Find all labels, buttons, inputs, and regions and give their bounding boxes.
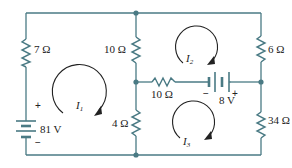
minus-sign-8v: − <box>203 88 209 99</box>
battery-8v <box>209 72 231 92</box>
label-81v: 81 V <box>40 123 62 135</box>
resistor-34-ohm <box>257 112 265 138</box>
circuit-schematic: 7 Ω 10 Ω 4 Ω 10 Ω 6 Ω 34 Ω 81 V + − 8 V … <box>0 0 292 168</box>
resistor-10-ohm-vertical <box>132 37 140 63</box>
plus-sign-81v: + <box>35 100 41 111</box>
circuit-diagram: 7 Ω 10 Ω 4 Ω 10 Ω 6 Ω 34 Ω 81 V + − 8 V … <box>0 0 292 168</box>
minus-sign-81v: − <box>35 137 41 148</box>
label-10-ohm-horizontal: 10 Ω <box>151 88 173 100</box>
label-34-ohm: 34 Ω <box>268 114 290 126</box>
label-7-ohm: 7 Ω <box>34 43 50 55</box>
label-6-ohm: 6 Ω <box>268 43 284 55</box>
plus-sign-8v: + <box>232 88 238 99</box>
junction-nodes <box>133 10 263 157</box>
mesh-loop-i3 <box>173 101 215 140</box>
label-4-ohm: 4 Ω <box>112 117 128 129</box>
resistor-4-ohm <box>132 110 140 136</box>
label-i2: I2 <box>185 52 194 66</box>
label-i3: I3 <box>182 135 191 149</box>
label-i1: I1 <box>75 99 83 113</box>
resistor-7-ohm <box>22 39 30 67</box>
resistor-6-ohm <box>257 36 265 62</box>
mesh-loop-i2 <box>176 26 218 65</box>
label-10-ohm-vertical: 10 Ω <box>104 43 126 55</box>
resistor-10-ohm-horizontal <box>152 78 175 86</box>
battery-81v <box>16 121 36 137</box>
